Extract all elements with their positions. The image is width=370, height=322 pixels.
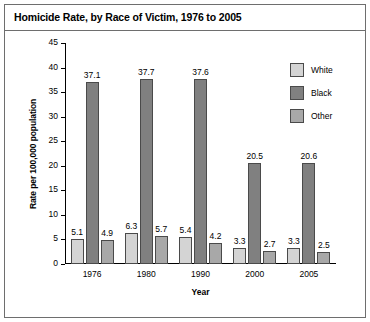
page-title: Homicide Rate, by Race of Victim, 1976 t… [14, 11, 242, 23]
plot-area: Rate per 100,000 population 051015202530… [5, 31, 365, 317]
y-tick-label: 30 [49, 111, 58, 121]
y-tick-label: 5 [53, 233, 58, 243]
y-axis-tick: 30 [5, 117, 65, 118]
legend-label: White [311, 65, 333, 75]
chart-frame: Homicide Rate, by Race of Victim, 1976 t… [4, 4, 366, 318]
bar-value-label: 20.5 [242, 151, 268, 161]
bar-other-1980 [155, 236, 168, 264]
legend-swatch-white [290, 63, 304, 77]
y-tick-label: 10 [49, 209, 58, 219]
legend-item-white: White [290, 63, 356, 86]
bar-white-1990 [179, 237, 192, 264]
bar-value-label: 37.1 [79, 70, 105, 80]
bar-value-label: 5.7 [148, 224, 174, 234]
legend: WhiteBlackOther [290, 63, 356, 132]
x-tick-label: 1980 [119, 269, 173, 279]
y-axis-tick: 40 [5, 68, 65, 69]
bar-other-2000 [263, 251, 276, 264]
y-tick-label: 45 [49, 37, 58, 47]
y-tick-label: 15 [49, 184, 58, 194]
y-tick-label: 40 [49, 62, 58, 72]
y-tick-mark [61, 264, 65, 265]
bar-value-label: 37.7 [133, 67, 159, 77]
legend-swatch-other [290, 109, 304, 123]
bar-group: 5.437.64.2 [173, 43, 227, 264]
bar-value-label: 37.6 [187, 67, 213, 77]
x-tick-label: 1976 [65, 269, 119, 279]
y-axis-tick: 10 [5, 215, 65, 216]
bar-black-1980 [140, 79, 153, 264]
y-axis-tick: 15 [5, 190, 65, 191]
bar-black-2000 [248, 163, 261, 264]
y-axis-tick: 45 [5, 43, 65, 44]
bar-white-1980 [125, 233, 138, 264]
legend-label: Other [311, 111, 332, 121]
bar-other-2005 [317, 252, 330, 264]
x-tick-label: 2000 [228, 269, 282, 279]
title-bar: Homicide Rate, by Race of Victim, 1976 t… [5, 5, 365, 31]
y-axis-tick: 5 [5, 239, 65, 240]
x-axis-label: Year [65, 287, 336, 297]
legend-swatch-black [290, 86, 304, 100]
y-tick-label: 35 [49, 86, 58, 96]
y-axis-tick: 35 [5, 92, 65, 93]
chart-screenshot: Homicide Rate, by Race of Victim, 1976 t… [0, 0, 370, 322]
y-tick-label: 0 [53, 258, 58, 268]
bar-value-label: 20.6 [296, 151, 322, 161]
bar-group: 3.320.52.7 [228, 43, 282, 264]
bar-white-1976 [71, 239, 84, 264]
bar-value-label: 4.9 [94, 228, 120, 238]
bar-value-label: 4.2 [202, 231, 228, 241]
bar-group: 5.137.14.9 [65, 43, 119, 264]
bar-value-label: 2.7 [257, 239, 283, 249]
bar-value-label: 2.5 [311, 240, 337, 250]
bar-white-2000 [233, 248, 246, 264]
bar-group: 6.337.75.7 [119, 43, 173, 264]
y-tick-label: 25 [49, 135, 58, 145]
y-axis-tick: 25 [5, 141, 65, 142]
y-axis-tick: 20 [5, 166, 65, 167]
bar-other-1990 [209, 243, 222, 264]
x-tick-label: 2005 [282, 269, 336, 279]
y-axis-tick: 0 [5, 264, 65, 265]
bar-white-2005 [287, 248, 300, 264]
x-tick-label: 1990 [173, 269, 227, 279]
bar-other-1976 [101, 240, 114, 264]
legend-item-other: Other [290, 109, 356, 132]
y-axis-label: Rate per 100,000 population [28, 79, 38, 229]
y-tick-label: 20 [49, 160, 58, 170]
legend-item-black: Black [290, 86, 356, 109]
legend-label: Black [311, 88, 332, 98]
